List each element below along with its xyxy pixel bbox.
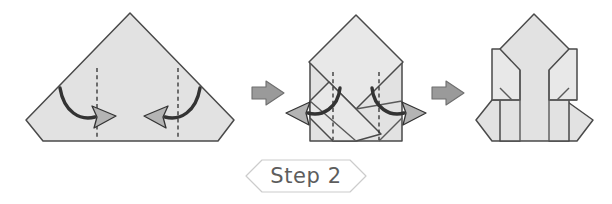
step-arrow-2 [432, 81, 464, 105]
step-banner: Step 2 [246, 160, 366, 192]
panel-mid-shape [286, 15, 426, 141]
step-arrow-1 [252, 81, 284, 105]
step-banner-label: Step 2 [270, 164, 341, 188]
panel-result-shape [476, 14, 593, 141]
start-pentagon-body [26, 13, 234, 141]
panel-start-shape [26, 13, 234, 141]
origami-diagram: Step 2 [0, 0, 612, 204]
diagram-canvas: Step 2 [0, 0, 612, 204]
